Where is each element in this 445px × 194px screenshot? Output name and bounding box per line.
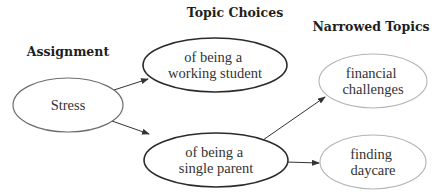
node-financial-challenges: financial challenges xyxy=(319,54,427,108)
single-parent-line-2: single parent xyxy=(179,160,254,176)
node-finding-daycare: finding daycare xyxy=(320,135,426,189)
arrow-stress-to-working-student xyxy=(114,79,148,90)
financial-challenges-line-2: challenges xyxy=(342,81,404,97)
arrow-single-parent-to-finding-daycare xyxy=(286,162,319,163)
finding-daycare-line-2: daycare xyxy=(350,162,395,178)
financial-challenges-line-1: financial xyxy=(346,65,397,81)
node-working-student: of being a working student xyxy=(143,38,287,92)
arrow-single-parent-to-financial-challenges xyxy=(263,97,325,140)
working-student-line-1: of being a xyxy=(184,49,243,65)
topic-narrowing-diagram: Topic Choices Assignment Narrowed Topics… xyxy=(0,0,445,194)
heading-narrowed-topics: Narrowed Topics xyxy=(312,19,429,34)
single-parent-label: of being a single parent xyxy=(179,144,254,176)
single-parent-line-1: of being a xyxy=(185,144,244,160)
arrow-stress-to-single-parent xyxy=(112,121,149,134)
stress-label: Stress xyxy=(51,97,86,113)
financial-challenges-label: financial challenges xyxy=(342,65,404,97)
heading-topic-choices: Topic Choices xyxy=(187,5,283,20)
working-student-line-2: working student xyxy=(168,65,262,81)
finding-daycare-line-1: finding xyxy=(350,146,392,162)
finding-daycare-label: finding daycare xyxy=(350,146,396,178)
node-stress: Stress xyxy=(13,78,123,132)
node-single-parent: of being a single parent xyxy=(144,133,288,187)
heading-assignment: Assignment xyxy=(26,44,110,59)
